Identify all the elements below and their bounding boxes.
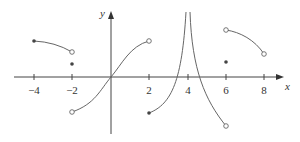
y-axis-label: y [99, 7, 105, 19]
tick-label-6: 6 [223, 84, 229, 96]
open-point [224, 124, 229, 129]
tick-label-8: 8 [261, 84, 267, 96]
open-point [262, 52, 267, 57]
curve-segment-3 [149, 12, 186, 113]
closed-point [224, 60, 228, 64]
curve-segment-1 [34, 41, 72, 52]
tick-label-2: 2 [146, 84, 152, 96]
y-axis-arrow-icon [108, 11, 114, 19]
closed-point [147, 111, 151, 115]
open-point [70, 110, 75, 115]
open-point [70, 50, 75, 55]
tick-label-neg4: −4 [28, 84, 40, 96]
open-point [224, 28, 229, 33]
x-axis-label: x [284, 80, 290, 92]
x-axis-arrow-icon [276, 74, 284, 80]
tick-label-4: 4 [185, 84, 191, 96]
tick-label-neg2: −2 [66, 84, 78, 96]
curve-segment-5 [226, 30, 264, 54]
curve-segment-4 [190, 12, 226, 126]
open-point [147, 39, 152, 44]
closed-point [70, 62, 74, 66]
closed-point [32, 39, 36, 43]
function-graph: x y −4 −2 2 4 6 8 [0, 0, 300, 142]
